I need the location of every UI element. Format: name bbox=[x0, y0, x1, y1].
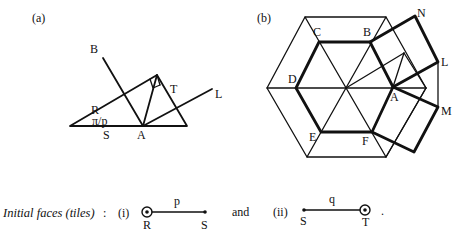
tile-i-left-vertex: R bbox=[143, 218, 151, 232]
label-e: E bbox=[309, 130, 316, 144]
label-l2: L bbox=[441, 55, 448, 69]
label-m: M bbox=[441, 104, 452, 118]
label-s: S bbox=[103, 128, 110, 142]
label-angle: π/p bbox=[92, 114, 107, 128]
label-a: A bbox=[137, 128, 146, 142]
mirror-line-l bbox=[143, 89, 212, 126]
tile-i-right-vertex: S bbox=[201, 218, 208, 232]
tile-ii-left-vertex: S bbox=[300, 214, 307, 228]
tile-ii-edge-label: q bbox=[329, 192, 335, 206]
tile-i-end-dot-icon bbox=[203, 210, 207, 214]
tile-i-edge-label: p bbox=[174, 194, 180, 208]
label-c: C bbox=[313, 25, 321, 39]
initial-faces-row: Initial faces (tiles) : (i) p R S and (i… bbox=[2, 192, 384, 232]
figure: (a) B R π/p S A T L (b) bbox=[0, 0, 462, 244]
tile-ii-right-vertex: T bbox=[362, 215, 370, 229]
mirror-line-b bbox=[103, 58, 143, 126]
panel-a-caption: (a) bbox=[32, 11, 45, 25]
terminator-period: . bbox=[381, 204, 384, 218]
panel-a: (a) B R π/p S A T L bbox=[32, 11, 222, 142]
tile-i-index: (i) bbox=[118, 206, 129, 220]
ray-to-tile-point bbox=[346, 53, 404, 88]
conjunction-and: and bbox=[232, 205, 249, 219]
tile-ii-index: (ii) bbox=[273, 205, 288, 219]
square-amf bbox=[372, 87, 438, 152]
label-l: L bbox=[215, 87, 222, 101]
label-d: D bbox=[288, 72, 297, 86]
title-colon: : bbox=[103, 206, 106, 220]
label-b2: B bbox=[363, 25, 371, 39]
label-t: T bbox=[170, 82, 178, 96]
panel-b: (b) C B N L D A M E F bbox=[257, 6, 452, 157]
label-a2: A bbox=[390, 90, 399, 104]
initial-faces-title: Initial faces (tiles) bbox=[2, 206, 95, 220]
tile-i-center-dot-icon bbox=[145, 210, 149, 214]
label-b: B bbox=[90, 42, 98, 56]
label-f: F bbox=[362, 134, 369, 148]
label-n: N bbox=[417, 6, 426, 20]
inner-hexagon bbox=[296, 42, 393, 132]
panel-b-caption: (b) bbox=[257, 11, 271, 25]
tile-ii-center-dot-icon bbox=[363, 208, 367, 212]
